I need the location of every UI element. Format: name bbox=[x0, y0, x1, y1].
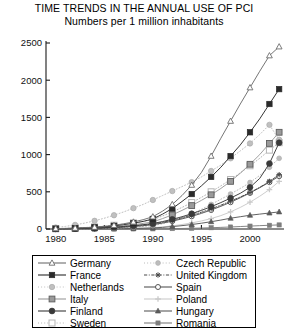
legend-item-sweden[interactable]: Sweden bbox=[37, 317, 143, 329]
legend-item-label: Romania bbox=[176, 318, 216, 329]
y-tick-label: 500 bbox=[26, 186, 42, 197]
data-point-marker bbox=[156, 285, 161, 290]
page-title: TIME TRENDS IN THE ANNUAL USE OF PCI bbox=[0, 2, 288, 15]
data-point-marker bbox=[267, 141, 273, 147]
data-point-marker bbox=[169, 216, 175, 222]
page-subtitle: Numbers per 1 million inhabitants bbox=[0, 15, 288, 28]
data-point-marker bbox=[267, 223, 271, 227]
title-block: TIME TRENDS IN THE ANNUAL USE OF PCI Num… bbox=[0, 2, 288, 28]
data-point-marker bbox=[266, 147, 272, 153]
data-point-marker bbox=[267, 101, 272, 106]
data-point-marker bbox=[247, 85, 253, 90]
data-point-marker bbox=[276, 44, 282, 49]
legend-swatch bbox=[37, 257, 67, 269]
y-tick-label: 2500 bbox=[21, 37, 42, 48]
legend-item-hungary[interactable]: Hungary bbox=[143, 305, 261, 317]
data-point-marker bbox=[228, 195, 234, 201]
data-point-marker bbox=[131, 205, 136, 210]
legend-item-finland[interactable]: Finland bbox=[37, 305, 143, 317]
x-tick-label: 1980 bbox=[45, 233, 66, 244]
data-point-marker bbox=[49, 272, 54, 277]
data-point-marker bbox=[155, 272, 160, 277]
data-point-marker bbox=[228, 209, 234, 215]
legend-item-spain[interactable]: Spain bbox=[143, 281, 261, 293]
legend-item-italy[interactable]: Italy bbox=[37, 293, 143, 305]
legend-item-label: Germany bbox=[70, 258, 111, 269]
data-point-marker bbox=[228, 225, 232, 229]
legend-item-label: Hungary bbox=[176, 306, 214, 317]
data-point-marker bbox=[111, 213, 116, 218]
data-point-marker bbox=[49, 320, 55, 326]
data-point-marker bbox=[208, 168, 213, 173]
chart-legend: GermanyCzech RepublicFranceUnited Kingdo… bbox=[32, 255, 256, 328]
data-point-marker bbox=[92, 218, 97, 223]
data-point-marker bbox=[208, 204, 214, 210]
legend-swatch bbox=[37, 281, 67, 293]
data-point-marker bbox=[156, 261, 161, 266]
legend-item-label: Netherlands bbox=[70, 282, 124, 293]
x-tick-label: 2000 bbox=[239, 233, 260, 244]
plot-area: 0500100015002000250019801985199019952000 bbox=[0, 30, 288, 245]
data-point-marker bbox=[189, 211, 195, 217]
legend-item-label: Italy bbox=[70, 294, 88, 305]
data-point-marker bbox=[208, 174, 213, 179]
legend-swatch bbox=[143, 317, 173, 329]
data-point-marker bbox=[276, 172, 281, 177]
legend-item-czech-republic[interactable]: Czech Republic bbox=[143, 257, 261, 269]
data-point-marker bbox=[247, 130, 252, 135]
series-line bbox=[56, 125, 279, 228]
data-point-marker bbox=[228, 118, 234, 123]
y-tick-label: 1000 bbox=[21, 149, 42, 160]
x-tick-label: 1985 bbox=[94, 233, 115, 244]
data-point-marker bbox=[189, 191, 194, 196]
data-point-marker bbox=[208, 192, 214, 198]
legend-item-france[interactable]: France bbox=[37, 269, 143, 281]
legend-swatch bbox=[143, 269, 173, 281]
data-point-marker bbox=[49, 284, 54, 289]
legend-swatch bbox=[143, 281, 173, 293]
data-point-marker bbox=[277, 156, 282, 161]
data-point-marker bbox=[276, 140, 282, 146]
data-point-marker bbox=[49, 308, 55, 314]
data-point-marker bbox=[228, 178, 234, 184]
x-tick-label: 1990 bbox=[142, 233, 163, 244]
legend-item-netherlands[interactable]: Netherlands bbox=[37, 281, 143, 293]
legend-item-romania[interactable]: Romania bbox=[143, 317, 261, 329]
data-point-marker bbox=[208, 153, 214, 158]
legend-item-label: United Kingdom bbox=[176, 270, 247, 281]
data-point-marker bbox=[247, 184, 253, 190]
data-point-marker bbox=[248, 224, 252, 228]
data-point-marker bbox=[209, 226, 213, 230]
data-point-marker bbox=[247, 199, 253, 205]
legend-item-label: Spain bbox=[176, 282, 202, 293]
data-point-marker bbox=[276, 86, 281, 91]
y-tick-label: 2000 bbox=[21, 75, 42, 86]
x-tick-label: 1995 bbox=[191, 233, 212, 244]
series-france bbox=[53, 86, 282, 231]
legend-swatch bbox=[143, 257, 173, 269]
data-point-marker bbox=[267, 179, 272, 184]
data-point-marker bbox=[49, 296, 55, 302]
series-netherlands bbox=[53, 122, 282, 230]
data-point-marker bbox=[170, 188, 175, 193]
legend-item-poland[interactable]: Poland bbox=[143, 293, 261, 305]
legend-item-label: Finland bbox=[70, 306, 103, 317]
data-point-marker bbox=[156, 321, 160, 325]
legend-item-label: Sweden bbox=[70, 318, 106, 329]
y-tick-label: 0 bbox=[37, 223, 42, 234]
data-point-marker bbox=[150, 197, 155, 202]
data-point-marker bbox=[277, 209, 282, 214]
legend-swatch bbox=[37, 305, 67, 317]
legend-swatch bbox=[37, 293, 67, 305]
data-point-marker bbox=[277, 223, 281, 227]
data-point-marker bbox=[247, 190, 252, 195]
data-point-marker bbox=[276, 129, 282, 135]
legend-item-germany[interactable]: Germany bbox=[37, 257, 143, 269]
legend-swatch bbox=[143, 305, 173, 317]
legend-item-united-kingdom[interactable]: United Kingdom bbox=[143, 269, 261, 281]
data-point-marker bbox=[267, 161, 273, 167]
legend-item-label: Poland bbox=[176, 294, 207, 305]
series-finland bbox=[53, 140, 282, 232]
data-point-marker bbox=[155, 296, 161, 302]
line-chart-svg: 0500100015002000250019801985199019952000 bbox=[0, 30, 288, 245]
